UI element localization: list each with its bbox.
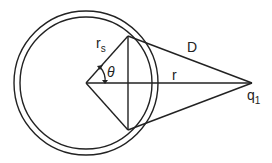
label-rs: rs [96, 36, 106, 50]
label-q1: q1 [247, 88, 260, 102]
radius-lower-line [86, 83, 128, 130]
label-D: D [187, 40, 197, 54]
diagram-canvas: rs θ D r q1 [0, 0, 272, 163]
tangent-lower-line [128, 83, 252, 130]
geometry-figure [0, 0, 272, 163]
label-r: r [172, 68, 177, 82]
label-theta: θ [107, 65, 115, 79]
